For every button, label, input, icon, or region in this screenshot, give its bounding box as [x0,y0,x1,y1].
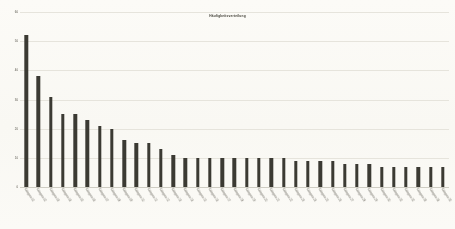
bar-slot [388,12,400,187]
bar [331,161,334,187]
bar-slot [314,12,326,187]
bar-slot [130,12,142,187]
x-tick-label: Kategorie 19 [244,188,255,202]
bar [221,158,224,187]
bar [184,158,187,187]
bar [24,35,27,187]
bar-slot [375,12,387,187]
bar [196,158,199,187]
bar-slot [32,12,44,187]
bar-slot [265,12,277,187]
bar-slot [277,12,289,187]
bar [417,167,420,187]
x-tick-label: Kategorie 29 [367,188,378,202]
bar-slot [400,12,412,187]
y-tick-label: 20 [15,127,18,131]
x-tick-label: Kategorie 17 [220,188,231,202]
x-tick-label: Kategorie 11 [146,188,157,202]
bar [441,167,444,187]
bar [270,158,273,187]
bar [122,140,125,187]
bar [392,167,395,187]
bar [257,158,260,187]
bar [49,97,52,187]
bar [355,164,358,187]
bar [380,167,383,187]
bar-slot [216,12,228,187]
y-tick-label: 40 [15,68,18,72]
bar-slot [253,12,265,187]
bar-slot [363,12,375,187]
x-tick-label: Kategorie 31 [391,188,402,202]
bar-slot [326,12,338,187]
bar-slot [118,12,130,187]
x-tick-label: Kategorie 09 [122,188,133,202]
x-tick-label: Kategorie 07 [97,188,108,202]
bar [319,161,322,187]
bar-slot [290,12,302,187]
x-tick-label: Kategorie 32 [404,188,415,202]
x-tick-label: Kategorie 21 [269,188,280,202]
bar [282,158,285,187]
bar-slot [106,12,118,187]
bar-slot [192,12,204,187]
bar-slot [20,12,32,187]
bar [368,164,371,187]
bar-slot [412,12,424,187]
bar-slot [143,12,155,187]
bar [306,161,309,187]
x-tick-label: Kategorie 27 [342,188,353,202]
bar-slot [351,12,363,187]
bar-slot [424,12,436,187]
bar [110,129,113,187]
x-tick-label: Kategorie 23 [293,188,304,202]
bar-slot [302,12,314,187]
bar-slot [155,12,167,187]
x-tick-label: Kategorie 03 [48,188,59,202]
bar [159,149,162,187]
bar [404,167,407,187]
x-tick-label: Kategorie 08 [109,188,120,202]
x-tick-label: Kategorie 02 [36,188,47,202]
bar-slot [241,12,253,187]
x-tick-label: Kategorie 16 [207,188,218,202]
x-tick-label: Kategorie 13 [171,188,182,202]
y-tick-label: 60 [15,10,18,14]
bar [135,143,138,187]
bar [343,164,346,187]
x-tick-label: Kategorie 05 [73,188,84,202]
bar-slot [94,12,106,187]
bar-slot [204,12,216,187]
bar [429,167,432,187]
bar-slot [437,12,449,187]
bar [233,158,236,187]
bar [86,120,89,187]
bar [98,126,101,187]
x-tick-label: Kategorie 20 [256,188,267,202]
y-tick-label: 10 [15,156,18,160]
bar [294,161,297,187]
x-tick-label: Kategorie 28 [355,188,366,202]
bar [172,155,175,187]
y-tick-label: 30 [15,98,18,102]
x-tick-label: Kategorie 30 [379,188,390,202]
x-tick-label: Kategorie 15 [195,188,206,202]
bar-slot [45,12,57,187]
x-tick-label: Kategorie 34 [428,188,439,202]
bar [37,76,40,187]
x-tick-label: Kategorie 04 [60,188,71,202]
x-tick-label: Kategorie 10 [134,188,145,202]
x-axis-tick-labels: Kategorie 01Kategorie 02Kategorie 03Kate… [20,188,449,229]
bar-slot [179,12,191,187]
y-tick-label: 0 [16,185,18,189]
bar [245,158,248,187]
x-tick-label: Kategorie 24 [306,188,317,202]
bar-slot [57,12,69,187]
bar [208,158,211,187]
x-tick-label: Kategorie 12 [158,188,169,202]
x-tick-label: Kategorie 06 [85,188,96,202]
chart-screenshot: Häufigkeitsverteilung 0102030405060 Kate… [0,0,455,229]
bar-slot [339,12,351,187]
x-tick-label: Kategorie 14 [183,188,194,202]
bar [61,114,64,187]
